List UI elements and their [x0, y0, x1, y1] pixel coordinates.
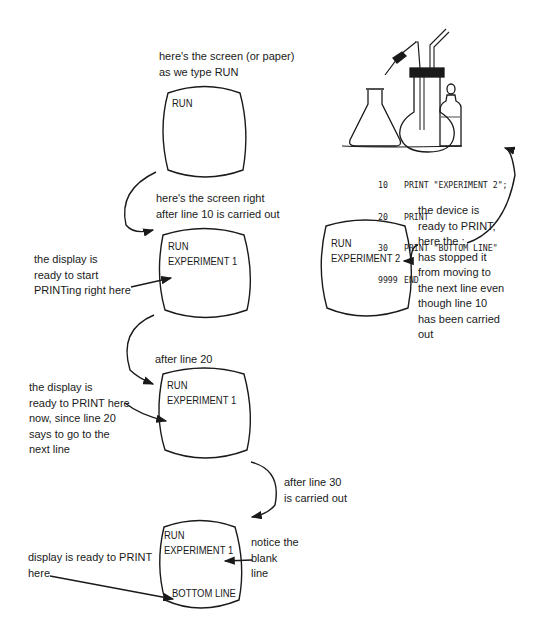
arrow-2-to-3	[127, 315, 154, 384]
line-number: 20	[378, 212, 404, 223]
program-line: 20PRINT	[378, 212, 508, 223]
arrow-3-to-4	[251, 462, 276, 517]
note-line: line	[251, 566, 299, 582]
statement: PRINT "BOTTOM LINE"	[404, 243, 498, 253]
note-ready-after-20: the display is ready to PRINT here now, …	[29, 380, 130, 458]
note-line: out	[418, 327, 504, 343]
screen-line: EXPERIMENT 1	[164, 543, 233, 558]
arrow-1-to-2	[125, 172, 156, 232]
caption-line: after line 30	[284, 475, 347, 491]
screen-1-content: RUN	[172, 96, 192, 111]
note-line: here	[28, 566, 152, 582]
screen-line: BOTTOM LINE	[172, 586, 236, 601]
pointer-ready-start	[131, 278, 171, 287]
note-line: notice the	[251, 535, 299, 551]
screen-line: RUN	[168, 239, 237, 254]
screen-3-content: RUN EXPERIMENT 1	[167, 378, 236, 408]
screen-4-content: RUN EXPERIMENT 1	[164, 528, 233, 558]
note-line: the display is	[29, 380, 130, 396]
screen-2-content: RUN EXPERIMENT 1	[168, 239, 237, 269]
note-line: the display is	[34, 252, 131, 268]
caption-line: is carried out	[284, 491, 347, 507]
note-ready-bottom: display is ready to PRINT here	[28, 550, 152, 581]
caption-line: here's the screen right	[156, 191, 280, 207]
note-line: now, since line 20	[29, 411, 130, 427]
note-line: blank	[251, 551, 299, 567]
note-line: though line 10	[418, 296, 504, 312]
note-line: PRINTing right here	[34, 283, 131, 299]
caption-line: after line 10 is carried out	[156, 207, 280, 223]
screen-2-caption: here's the screen right after line 10 is…	[156, 191, 280, 222]
line-number: 10	[378, 180, 404, 191]
line-number: 9999	[378, 275, 404, 286]
program-line: 30PRINT "BOTTOM LINE"	[378, 243, 508, 254]
caption-line: here's the screen (or paper)	[159, 49, 294, 65]
screen-4-caption: after line 30 is carried out	[284, 475, 347, 506]
note-blank-line: notice the blank line	[251, 535, 299, 582]
screen-line: EXPERIMENT 1	[168, 254, 237, 269]
statement: PRINT "EXPERIMENT 2";	[404, 180, 508, 190]
screen-line: RUN	[167, 378, 236, 393]
note-line: ready to PRINT here	[29, 396, 130, 412]
screen-1-caption: here's the screen (or paper) as we type …	[159, 49, 294, 80]
note-line: has been carried	[418, 312, 504, 328]
screen-4-bottom-line: BOTTOM LINE	[172, 586, 236, 601]
lab-glassware-icon	[342, 29, 462, 152]
statement: PRINT	[404, 212, 429, 222]
screen-line: RUN	[164, 528, 233, 543]
caption-line: as we type RUN	[159, 65, 294, 81]
program-listing: 10PRINT "EXPERIMENT 2"; 20PRINT 30PRINT …	[378, 159, 508, 296]
note-ready-start: the display is ready to start PRINTing r…	[34, 252, 131, 299]
statement: END	[404, 275, 419, 285]
note-line: ready to start	[34, 268, 131, 284]
caption-line: after line 20	[155, 352, 212, 368]
program-line: 9999END	[378, 275, 508, 286]
line-number: 30	[378, 243, 404, 254]
note-line: next line	[29, 442, 130, 458]
pointer-blank-line	[225, 560, 252, 561]
screen-line: RUN	[172, 96, 192, 111]
screen-line: EXPERIMENT 1	[167, 393, 236, 408]
program-line: 10PRINT "EXPERIMENT 2";	[378, 180, 508, 191]
note-line: display is ready to PRINT	[28, 550, 152, 566]
screen-3-caption: after line 20	[155, 352, 212, 368]
note-line: says to go to the	[29, 427, 130, 443]
